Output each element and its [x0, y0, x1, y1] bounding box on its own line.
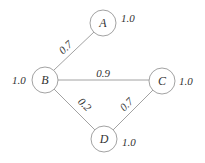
edge-label-b-c: 0.9	[96, 67, 110, 79]
node-d: D 1.0	[91, 126, 136, 152]
edge-c-d	[113, 90, 153, 130]
node-d-weight: 1.0	[122, 136, 136, 148]
node-a: A 1.0	[90, 10, 135, 36]
node-b-label: B	[41, 73, 49, 87]
node-a-label: A	[98, 16, 107, 30]
graph-diagram: 0.7 0.9 0.2 0.7 A 1.0 B 1.0 C 1.0 D 1.0	[0, 0, 205, 163]
node-b: B 1.0	[12, 67, 58, 93]
node-d-label: D	[99, 132, 109, 146]
node-c-weight: 1.0	[179, 75, 193, 87]
edge-label-b-d: 0.2	[76, 95, 95, 114]
node-c-label: C	[158, 74, 167, 88]
node-b-weight: 1.0	[12, 74, 26, 86]
node-c: C 1.0	[149, 68, 193, 94]
node-a-weight: 1.0	[121, 12, 135, 24]
